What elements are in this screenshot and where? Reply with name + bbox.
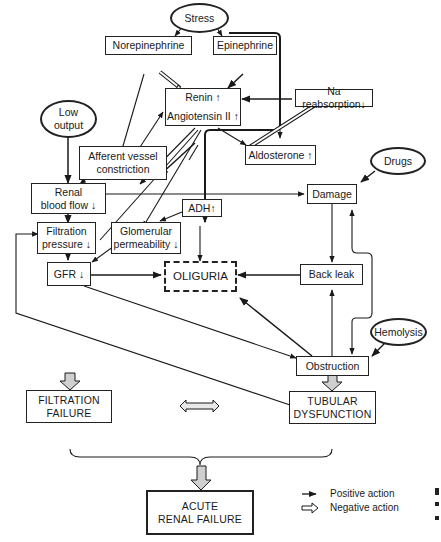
node-back-leak-label: Back leak [309, 268, 355, 281]
node-drugs-label: Drugs [384, 155, 412, 168]
node-adh: ADH↑ [182, 199, 222, 217]
legend-positive: Positive action [330, 488, 394, 499]
node-tubular-label-2: DYSFUNCTION [293, 408, 371, 421]
node-afferent-vessel-constriction: Afferent vessel constriction [79, 146, 167, 180]
node-epinephrine-label: Epinephrine [217, 39, 273, 52]
node-aldosterone: Aldosterone ↑ [245, 145, 316, 165]
node-filtration-failure: FILTRATION FAILURE [26, 390, 112, 423]
node-stress: Stress [170, 3, 229, 33]
node-filtration-failure-label-2: FAILURE [38, 407, 100, 420]
node-back-leak: Back leak [300, 264, 363, 285]
node-filtration-label-1: Filtration [42, 225, 91, 238]
node-renin-label: Renin ↑ [167, 91, 239, 104]
node-afferent-label-1: Afferent vessel [88, 150, 157, 163]
node-oliguria: OLIGURIA [164, 261, 237, 292]
node-angiotensin-label: Angiotensin II ↑ [167, 110, 239, 123]
node-stress-label: Stress [185, 12, 215, 25]
edge-fragment [435, 488, 439, 528]
node-renal-bf-label-1: Renal [41, 186, 96, 199]
legend-positive-label: Positive action [330, 488, 394, 499]
node-hemolysis-label: Hemolysis [374, 326, 422, 339]
block-arrow-arf [191, 466, 211, 490]
node-arf-label-1: ACUTE [158, 500, 242, 513]
node-low-output-label-2: output [54, 119, 83, 132]
node-filtration-pressure: Filtration pressure ↓ [37, 222, 96, 254]
node-hemolysis: Hemolysis [370, 318, 427, 346]
node-epinephrine: Epinephrine [213, 36, 277, 55]
node-filtration-label-2: pressure ↓ [42, 238, 91, 251]
node-glomerular-label-2: permeability ↓ [114, 238, 179, 251]
double-arrow [180, 400, 219, 412]
node-afferent-label-2: constriction [88, 163, 157, 176]
node-gfr: GFR ↓ [47, 262, 91, 286]
node-glomerular-permeability: Glomerular permeability ↓ [111, 222, 181, 254]
node-norepinephrine: Norepinephrine [105, 36, 192, 55]
node-tubular-label-1: TUBULAR [293, 395, 371, 408]
block-arrow-tubular [322, 374, 342, 391]
node-renal-blood-flow: Renal blood flow ↓ [31, 183, 106, 214]
node-damage-label: Damage [312, 188, 352, 201]
node-na-reabsorption: Na reabsorption↓ [295, 89, 373, 107]
block-arrow-filtration-failure [60, 373, 80, 390]
node-oliguria-label: OLIGURIA [173, 270, 228, 284]
node-filtration-failure-label-1: FILTRATION [38, 394, 100, 407]
node-obstruction-label: Obstruction [306, 360, 360, 373]
node-drugs: Drugs [370, 147, 426, 175]
node-tubular-dysfunction: TUBULAR DYSFUNCTION [289, 391, 376, 424]
node-low-output: Low output [40, 100, 97, 138]
node-glomerular-label-1: Glomerular [114, 225, 179, 238]
node-adh-label: ADH↑ [188, 202, 215, 215]
node-na-reabsorption-label: Na reabsorption↓ [296, 85, 372, 110]
node-obstruction: Obstruction [296, 356, 369, 376]
legend-negative-label: Negative action [330, 502, 399, 513]
node-acute-renal-failure: ACUTE RENAL FAILURE [146, 490, 254, 535]
node-damage: Damage [307, 184, 357, 204]
node-low-output-label-1: Low [54, 106, 83, 119]
legend-negative: Negative action [330, 502, 399, 513]
node-renal-bf-label-2: blood flow ↓ [41, 199, 96, 212]
node-aldosterone-label: Aldosterone ↑ [248, 149, 312, 162]
node-gfr-label: GFR ↓ [54, 268, 84, 281]
node-arf-label-2: RENAL FAILURE [158, 513, 242, 526]
acute-renal-failure-diagram: Stress Norepinephrine Epinephrine Renin … [0, 0, 441, 542]
node-renin-angiotensin: Renin ↑ Angiotensin II ↑ [165, 88, 241, 126]
node-norepinephrine-label: Norepinephrine [113, 39, 185, 52]
